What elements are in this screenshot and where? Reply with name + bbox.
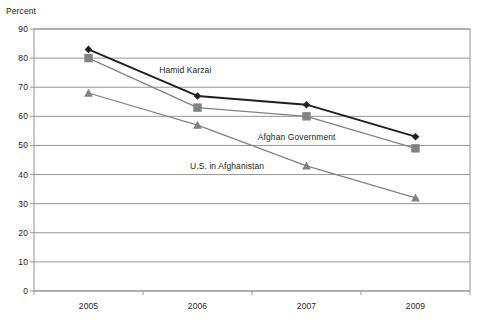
x-tick-label: 2005 <box>79 301 98 311</box>
series-label-1: Afghan Government <box>258 132 336 142</box>
y-tick-label: 30 <box>4 199 28 209</box>
y-tick-marks-group <box>30 29 34 291</box>
data-point-marker-square <box>84 54 92 62</box>
series-label-0: Hamid Karzai <box>159 65 211 75</box>
series-line-1 <box>89 58 416 148</box>
data-point-marker-triangle <box>302 161 311 169</box>
y-tick-label: 20 <box>4 228 28 238</box>
y-tick-label: 90 <box>4 24 28 34</box>
x-tick-label: 2007 <box>297 301 316 311</box>
y-tick-label: 10 <box>4 257 28 267</box>
data-point-marker-square <box>302 112 310 120</box>
y-tick-label: 50 <box>4 140 28 150</box>
gridlines-group <box>34 29 470 291</box>
data-point-marker-diamond <box>303 101 311 109</box>
x-tick-label: 2006 <box>188 301 207 311</box>
data-point-marker-square <box>411 144 419 152</box>
x-tick-marks-group <box>34 291 470 295</box>
data-point-marker-triangle <box>84 89 93 97</box>
data-point-marker-diamond <box>85 46 93 54</box>
y-tick-label: 60 <box>4 111 28 121</box>
x-tick-label: 2009 <box>406 301 425 311</box>
axes-group <box>34 29 470 291</box>
y-tick-label: 0 <box>4 286 28 296</box>
data-point-marker-diamond <box>194 92 202 100</box>
series-lines-group <box>89 49 416 197</box>
chart-container: Percent 0102030405060708090 200520062007… <box>0 0 481 328</box>
data-point-marker-diamond <box>412 133 420 141</box>
y-tick-label: 40 <box>4 170 28 180</box>
series-line-0 <box>89 49 416 136</box>
data-point-marker-square <box>193 103 201 111</box>
y-tick-label: 80 <box>4 53 28 63</box>
y-tick-label: 70 <box>4 82 28 92</box>
series-label-2: U.S. in Afghanistan <box>190 161 264 171</box>
